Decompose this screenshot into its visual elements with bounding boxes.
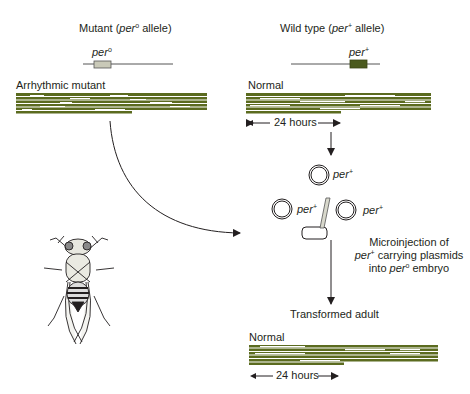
microinjection-caption: Microinjection of per+ carrying plasmids… <box>350 236 468 275</box>
plasmid-label-1: per+ <box>333 168 353 180</box>
plasmid-label-2: per+ <box>297 203 317 215</box>
normal-label-bottom: Normal <box>249 331 284 343</box>
normal-label-top: Normal <box>248 79 283 91</box>
per-o-gene-box <box>94 61 111 68</box>
mutant-gene-label: pero <box>92 46 112 58</box>
wildtype-gene-label: per+ <box>349 46 369 58</box>
mutant-gene-map <box>83 61 173 68</box>
plasmid-label-3: per+ <box>363 204 383 216</box>
arrhythmic-activity-record <box>16 93 207 114</box>
transformed-adult-label: Transformed adult <box>290 308 379 320</box>
arrow-mutant-to-embryo <box>110 121 240 233</box>
wildtype-gene-map <box>291 60 380 68</box>
fruit-fly-illustration <box>44 236 114 344</box>
arrhythmic-mutant-label: Arrhythmic mutant <box>16 79 105 91</box>
per-plus-gene-box <box>350 60 367 68</box>
mutant-title: Mutant (pero allele) <box>79 22 172 34</box>
transformed-activity-record <box>249 345 438 365</box>
normal-activity-record <box>246 93 431 114</box>
duration-label-top: 24 hours <box>274 116 317 128</box>
duration-label-bottom: 24 hours <box>276 369 319 381</box>
micropipette <box>320 198 330 228</box>
diagram-canvas <box>0 0 470 394</box>
wildtype-title: Wild type (per+ allele) <box>280 22 384 34</box>
embryo <box>302 227 327 239</box>
